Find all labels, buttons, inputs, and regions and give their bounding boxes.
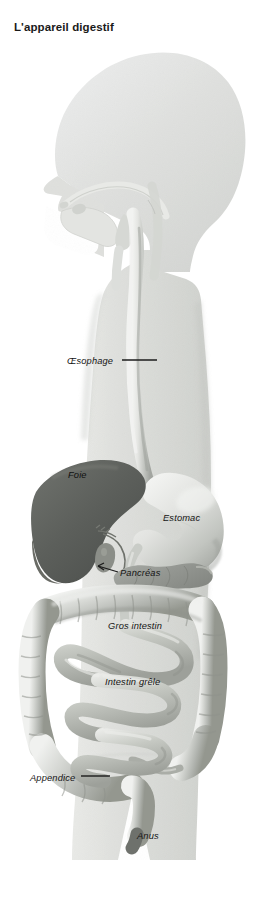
figure-page: L'appareil digestif bbox=[0, 0, 268, 913]
label-oesophage: Œsophage bbox=[67, 356, 113, 366]
label-foie: Foie bbox=[68, 470, 87, 480]
label-intestin-grele: Intestin grêle bbox=[105, 677, 160, 687]
trachea bbox=[116, 250, 119, 286]
descending-colon bbox=[32, 612, 46, 746]
label-gros-intestin: Gros intestin bbox=[108, 621, 162, 631]
label-appendice: Appendice bbox=[30, 773, 75, 783]
label-pancreas: Pancréas bbox=[120, 568, 160, 578]
label-anus: Anus bbox=[137, 831, 159, 841]
label-estomac: Estomac bbox=[163, 513, 200, 523]
